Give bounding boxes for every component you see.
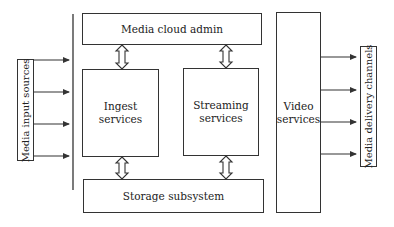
ingest-services-label: Ingest services — [83, 100, 158, 126]
streaming-services-label-line2: services — [199, 112, 242, 125]
media-delivery-channels-label: Media delivery channels — [363, 45, 374, 169]
output-arrows — [320, 57, 356, 154]
video-services-label-line1: Video — [283, 100, 313, 113]
admin-streaming-arrow — [220, 45, 232, 68]
video-services-label-line2: services — [277, 113, 320, 126]
media-input-sources-box: Media input sources — [17, 59, 34, 161]
media-delivery-channels-box: Media delivery channels — [360, 46, 377, 167]
media-input-sources-label: Media input sources — [20, 58, 31, 162]
input-arrows — [33, 60, 69, 156]
storage-subsystem-label: Storage subsystem — [123, 190, 224, 203]
media-cloud-admin-box: Media cloud admin — [82, 13, 262, 45]
streaming-storage-arrow — [220, 156, 232, 179]
media-cloud-admin-label: Media cloud admin — [121, 23, 223, 36]
streaming-services-box: Streaming services — [183, 68, 259, 156]
ingest-storage-arrow — [116, 157, 128, 179]
streaming-services-label-line1: Streaming — [193, 99, 249, 112]
storage-subsystem-box: Storage subsystem — [83, 179, 264, 213]
admin-ingest-arrow — [116, 45, 128, 69]
ingest-services-box: Ingest services — [82, 69, 159, 157]
video-services-box: Video services — [276, 12, 321, 213]
